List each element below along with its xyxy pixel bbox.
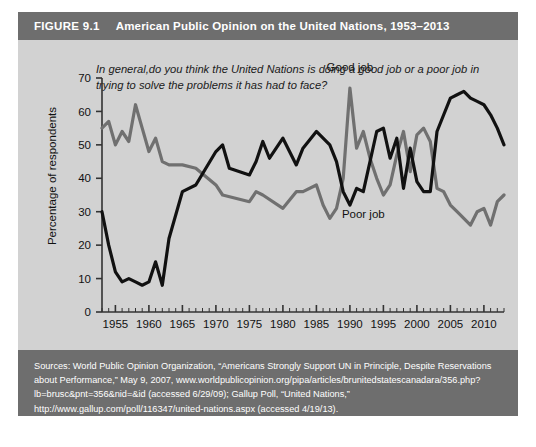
x-tick-label-2000: 2000: [404, 318, 430, 330]
y-tick-label-60: 60: [78, 106, 91, 118]
y-tick-label-30: 30: [78, 206, 91, 218]
series-line-poor-job: [102, 91, 504, 285]
x-tick-label-2005: 2005: [438, 318, 464, 330]
x-tick-label-1975: 1975: [237, 318, 263, 330]
figure-number-label: FIGURE 9.1: [34, 20, 100, 32]
series-line-good-job: [102, 88, 504, 225]
x-tick-label-1985: 1985: [304, 318, 330, 330]
y-tick-label-0: 0: [85, 306, 91, 318]
figure-title: American Public Opinion on the United Na…: [116, 20, 450, 32]
x-tick-label-2010: 2010: [471, 318, 497, 330]
annotation-good-job: Good job: [327, 61, 374, 73]
x-tick-label-1990: 1990: [337, 318, 363, 330]
y-axis-ticks: 010203040506070: [78, 72, 102, 318]
sources-text: Sources: World Public Opinion Organizati…: [34, 359, 502, 416]
line-chart: 010203040506070 195519601965197019751980…: [18, 40, 518, 350]
y-tick-label-50: 50: [78, 139, 91, 151]
y-tick-label-40: 40: [78, 172, 91, 184]
x-tick-label-1960: 1960: [136, 318, 162, 330]
figure-header: FIGURE 9.1 American Public Opinion on th…: [18, 12, 518, 40]
y-tick-label-10: 10: [78, 273, 91, 285]
x-axis-ticks: 1955196019651970197519801985199019952000…: [102, 305, 504, 330]
y-tick-label-20: 20: [78, 239, 91, 251]
x-tick-label-1995: 1995: [371, 318, 397, 330]
x-tick-label-1955: 1955: [103, 318, 129, 330]
figure-card: FIGURE 9.1 American Public Opinion on th…: [18, 12, 518, 416]
x-tick-label-1965: 1965: [170, 318, 196, 330]
y-tick-label-70: 70: [78, 72, 91, 84]
sources-panel: Sources: World Public Opinion Organizati…: [18, 350, 518, 416]
x-tick-label-1980: 1980: [270, 318, 296, 330]
x-tick-label-1970: 1970: [203, 318, 229, 330]
series-lines: [102, 88, 504, 285]
annotation-poor-job: Poor job: [342, 208, 385, 220]
plot-region: In general,do you think the United Natio…: [18, 40, 518, 350]
